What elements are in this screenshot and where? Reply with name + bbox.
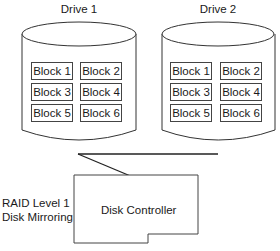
raid-caption: RAID Level 1 Disk Mirroring <box>2 196 73 224</box>
drive-1-block-2: Block 2 <box>80 62 122 80</box>
drive-1-block-1: Block 1 <box>31 62 73 80</box>
disk-controller-label: Disk Controller <box>101 204 176 217</box>
raid-caption-line-2: Disk Mirroring <box>2 210 73 224</box>
drive-1-block-4: Block 4 <box>80 83 122 101</box>
drive-2-block-2: Block 2 <box>220 62 262 80</box>
raid-caption-line-1: RAID Level 1 <box>2 196 73 210</box>
drive-2-block-3: Block 3 <box>170 83 212 101</box>
drive-2-block-1: Block 1 <box>170 62 212 80</box>
drive-1-cylinder <box>22 22 136 140</box>
drive-2-block-6: Block 6 <box>220 104 262 122</box>
drive-2-cylinder <box>162 22 275 140</box>
drive-2-block-5: Block 5 <box>170 104 212 122</box>
drive-1-block-5: Block 5 <box>31 104 73 122</box>
drive-1-block-3: Block 3 <box>31 83 73 101</box>
drive-2-label: Drive 2 <box>178 3 258 16</box>
drive-1-label: Drive 1 <box>39 3 119 16</box>
drive-1-block-6: Block 6 <box>80 104 122 122</box>
drive-2-block-4: Block 4 <box>220 83 262 101</box>
